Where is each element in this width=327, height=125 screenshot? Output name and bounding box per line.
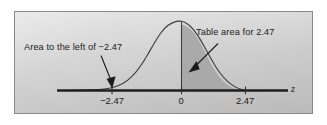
x-tick-label-negative: −2.47 — [88, 95, 136, 106]
annotation-left-area-label: Area to the left of −2.47 — [24, 42, 122, 52]
normal-curve-figure: Area to the left of −2.47 Table area for… — [0, 0, 327, 125]
left-annotation-arrow-line — [101, 56, 111, 81]
annotation-table-area-label: Table area for 2.47 — [196, 27, 275, 37]
x-tick-label-positive: 2.47 — [225, 95, 265, 106]
x-axis-name-label: z — [291, 83, 295, 94]
x-tick-label-zero: 0 — [168, 95, 194, 106]
normal-curve-plot — [0, 0, 327, 125]
